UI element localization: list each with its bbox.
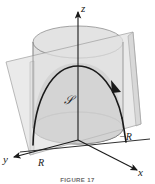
figure-illustration: z x y R −R 𝒮 (0, 0, 155, 184)
z-axis-label: z (80, 2, 86, 14)
point-label-negative-r: −R (119, 131, 132, 142)
point-label-r: R (37, 157, 44, 168)
figure-caption: FIGURE 17 (0, 177, 155, 184)
x-axis (78, 140, 137, 170)
y-axis-label: y (2, 153, 8, 165)
figure-container: z x y R −R 𝒮 FIGURE 17 (0, 0, 155, 184)
